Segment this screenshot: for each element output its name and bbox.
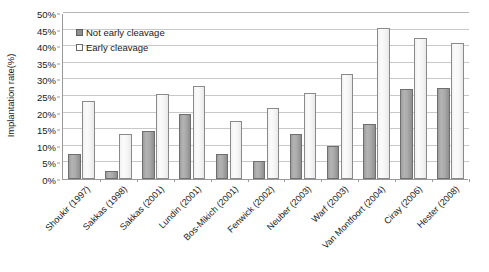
bar xyxy=(290,134,303,179)
y-tick-mark-10 xyxy=(57,146,60,147)
bar xyxy=(216,154,229,179)
y-tick-mark-25 xyxy=(57,97,60,98)
y-tick-mark-0 xyxy=(57,180,60,181)
bar xyxy=(68,154,81,179)
legend-swatch-icon xyxy=(76,44,83,51)
y-tick-mark-40 xyxy=(57,47,60,48)
y-tick-label-15: 15% xyxy=(37,125,56,136)
gridline-50 xyxy=(63,12,469,13)
bar xyxy=(327,146,340,179)
bar xyxy=(377,28,390,179)
y-tick-mark-35 xyxy=(57,63,60,64)
legend-label: Not early cleavage xyxy=(86,27,165,38)
y-tick-mark-45 xyxy=(57,30,60,31)
legend-item: Not early cleavage xyxy=(76,27,165,38)
y-tick-mark-50 xyxy=(57,14,60,15)
y-tick-label-10: 10% xyxy=(37,141,56,152)
bar-group xyxy=(358,14,395,179)
y-axis-title-text: Implantation rate(%) xyxy=(6,53,17,137)
y-tick-label-40: 40% xyxy=(37,42,56,53)
y-tick-label-35: 35% xyxy=(37,58,56,69)
bar xyxy=(267,108,280,179)
bar xyxy=(142,131,155,179)
bar xyxy=(304,93,317,179)
y-tick-label-0: 0% xyxy=(42,175,56,186)
bar xyxy=(437,88,450,179)
bar-group xyxy=(284,14,321,179)
y-axis-tick-labels: 0%5%10%15%20%25%30%35%40%45%50% xyxy=(22,14,60,180)
bar xyxy=(363,124,376,179)
bar xyxy=(193,86,206,179)
bar-group xyxy=(395,14,432,179)
implantation-rate-bar-chart: Implantation rate(%) 0%5%10%15%20%25%30%… xyxy=(0,0,489,272)
legend-swatch-icon xyxy=(76,29,83,36)
bar-group xyxy=(432,14,469,179)
bar xyxy=(341,74,354,179)
x-tick-label: Van Montfoort (2004) xyxy=(320,184,387,251)
bar-group xyxy=(248,14,285,179)
bar-group xyxy=(321,14,358,179)
bar xyxy=(119,134,132,179)
bar xyxy=(82,101,95,179)
y-tick-mark-15 xyxy=(57,130,60,131)
bar xyxy=(414,38,427,179)
y-tick-label-30: 30% xyxy=(37,75,56,86)
bar xyxy=(156,94,169,179)
y-tick-label-5: 5% xyxy=(42,158,56,169)
bar xyxy=(451,43,464,179)
bar-group xyxy=(174,14,211,179)
bar xyxy=(400,89,413,179)
x-tick-mark xyxy=(469,179,470,182)
legend-item: Early cleavage xyxy=(76,42,165,53)
x-axis-tick-labels: Shoukir (1997)Sakkas (1998)Sakkas (2001)… xyxy=(62,181,468,272)
y-tick-label-50: 50% xyxy=(37,9,56,20)
chart-legend: Not early cleavageEarly cleavage xyxy=(76,27,165,53)
legend-label: Early cleavage xyxy=(86,42,148,53)
bar xyxy=(105,171,118,179)
y-axis-title: Implantation rate(%) xyxy=(0,0,22,190)
y-tick-mark-5 xyxy=(57,163,60,164)
bar xyxy=(253,161,266,179)
bar-group xyxy=(211,14,248,179)
y-tick-label-45: 45% xyxy=(37,25,56,36)
y-tick-mark-30 xyxy=(57,80,60,81)
y-tick-label-25: 25% xyxy=(37,92,56,103)
y-tick-mark-20 xyxy=(57,113,60,114)
y-tick-label-20: 20% xyxy=(37,108,56,119)
bar xyxy=(230,121,243,179)
bar xyxy=(179,114,192,179)
